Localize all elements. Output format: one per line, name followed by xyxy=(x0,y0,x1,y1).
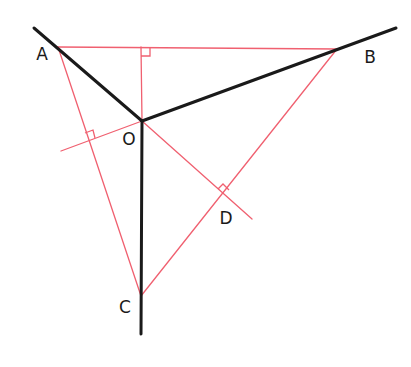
ray-OA xyxy=(34,28,142,121)
ray-OC xyxy=(141,121,142,334)
right-angle-AB-mark xyxy=(141,48,150,56)
geometry-diagram xyxy=(0,0,411,367)
label-point-c: C xyxy=(119,299,131,316)
perpendicular-O-to-BC xyxy=(142,121,252,219)
perpendicular-O-to-AB xyxy=(141,47,142,121)
ray-OB xyxy=(142,28,396,121)
black-rays xyxy=(34,28,396,334)
label-point-a: A xyxy=(36,46,48,63)
label-point-b: B xyxy=(364,49,376,66)
label-point-d: D xyxy=(219,210,232,227)
label-point-o: O xyxy=(122,131,135,148)
segment-AB xyxy=(58,47,337,49)
